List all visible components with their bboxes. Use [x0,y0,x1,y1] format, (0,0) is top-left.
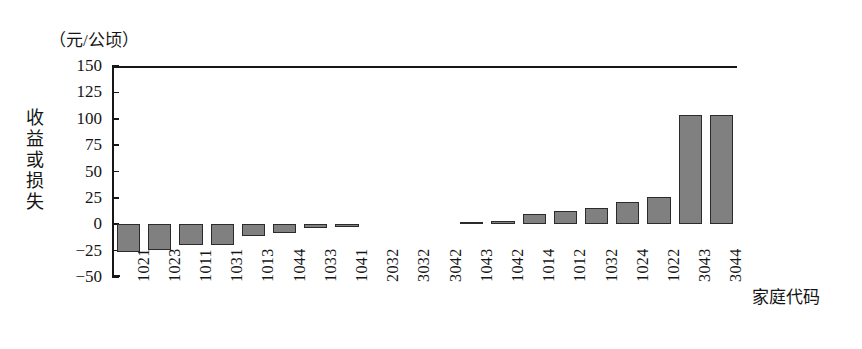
bar-slot [304,66,327,277]
bar[interactable] [554,211,577,225]
x-axis-title: 家庭代码 [752,283,820,308]
y-axis-title-char: 益 [24,129,46,150]
x-axis-tick-label: 3044 [727,248,745,282]
x-axis-tick-label: 1044 [291,248,309,282]
bar-slot [242,66,265,277]
x-axis-tick-label: 1011 [197,249,215,282]
bar[interactable] [273,224,296,232]
x-axis-tick-label: 1031 [228,248,246,282]
x-axis-tick-label: 1012 [571,248,589,282]
bar[interactable] [523,214,546,225]
y-axis-title-char: 失 [24,192,46,213]
bar[interactable] [616,202,639,224]
y-axis-tick-label: 125 [77,82,103,102]
bar-slot [179,66,202,277]
x-axis-tick-label: 1042 [509,248,527,282]
bar-slot [429,66,452,277]
bar-slot [335,66,358,277]
x-axis-tick-label: 1013 [259,248,277,282]
x-axis-tick-label: 2032 [384,248,402,282]
bar-slot [554,66,577,277]
bar[interactable] [211,224,234,245]
bar-slot [148,66,171,277]
bar[interactable] [585,208,608,224]
bar-slot [211,66,234,277]
x-axis-tick-label: 1024 [634,248,652,282]
x-axis-tick-label: 3032 [415,248,433,282]
bar[interactable] [179,224,202,245]
bar-slot [585,66,608,277]
bar-slot [647,66,670,277]
bar[interactable] [242,224,265,236]
y-axis-tick-label: −50 [75,267,102,287]
y-axis-unit-caption: （元/公顷） [49,26,139,51]
y-axis-tick-label: 75 [85,135,102,155]
bar[interactable] [647,197,670,224]
x-axis-tick-label: 1014 [540,248,558,282]
bar[interactable] [460,222,483,224]
plot-area: 1501251007550250−25−50 [112,66,737,277]
y-axis-title: 收益或损失 [24,108,46,213]
y-axis-tick-label: −25 [75,241,102,261]
bar-slot [710,66,733,277]
bar[interactable] [491,221,514,224]
bar-slot [523,66,546,277]
chart-figure: （元/公顷） 收益或损失 1501251007550250−25−50 1021… [0,0,862,349]
x-axis-tick-label: 1021 [135,248,153,282]
y-axis-tick-label: 0 [94,214,103,234]
bar-slot [367,66,390,277]
bar-series [113,66,737,277]
y-axis-tick-label: 100 [77,109,103,129]
bar-slot [679,66,702,277]
y-axis-tick-label: 50 [85,162,102,182]
bar-slot [460,66,483,277]
y-axis-tick-label: 150 [77,56,103,76]
y-axis-title-char: 或 [24,150,46,171]
x-axis-tick-label: 1043 [478,248,496,282]
bar[interactable] [710,115,733,225]
x-axis-tick-label: 3042 [447,248,465,282]
y-axis-tick-label: 25 [85,188,102,208]
bar-slot [491,66,514,277]
x-axis-tick-label: 3043 [696,248,714,282]
bar[interactable] [148,224,171,249]
x-axis-tick-label: 1033 [322,248,340,282]
bar[interactable] [304,224,327,228]
x-axis-tick-label: 1023 [166,248,184,282]
bar[interactable] [679,115,702,225]
bar-slot [616,66,639,277]
x-axis-tick-label: 1041 [353,248,371,282]
y-axis-title-char: 损 [24,171,46,192]
y-axis-title-char: 收 [24,108,46,129]
bar-slot [273,66,296,277]
bar-slot [117,66,140,277]
bar-slot [398,66,421,277]
x-axis-tick-label: 1022 [665,248,683,282]
bar[interactable] [335,224,358,227]
x-axis-tick-label: 1032 [603,248,621,282]
